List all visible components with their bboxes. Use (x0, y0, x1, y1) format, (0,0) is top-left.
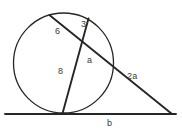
label-segment-b: b (107, 119, 112, 128)
label-segment-6: 6 (55, 27, 60, 36)
label-segment-3: 3 (81, 20, 86, 29)
label-segment-8: 8 (58, 67, 63, 76)
circle-outline (14, 13, 114, 113)
label-segment-2a: 2a (127, 72, 137, 81)
label-segment-a: a (87, 56, 92, 65)
geometry-diagram: 6 3 a 8 2a b (0, 0, 182, 137)
chord-line (63, 19, 89, 114)
diagram-canvas (0, 0, 182, 137)
secant-line (50, 16, 172, 115)
